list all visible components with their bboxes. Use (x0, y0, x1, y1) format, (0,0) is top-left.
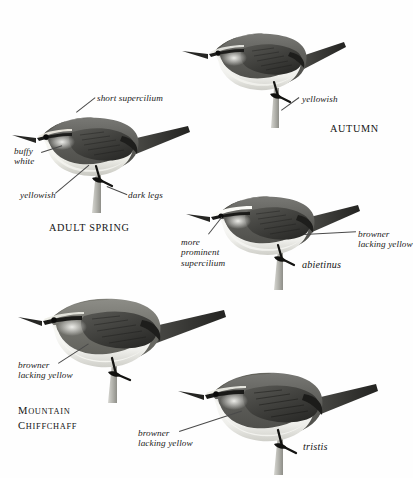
foot (108, 371, 121, 377)
eye (216, 51, 221, 56)
label-browner-lacking-yellow-tristis: browner lacking yellow (138, 428, 193, 449)
bird-autumn (178, 18, 348, 128)
caption-abietinus: abietinus (302, 259, 341, 270)
foot (274, 443, 287, 449)
illustration-plate: yellowish AUTUMN sh (0, 0, 413, 478)
foot (92, 177, 104, 183)
caption-tristis: tristis (303, 441, 328, 452)
label-browner-lacking-yellow-abietinus: browner lacking yellow (358, 229, 413, 250)
caption-mountain-rest: OUNTAIN (28, 407, 70, 416)
label-browner-lacking-yellow-mountain: browner lacking yellow (18, 360, 73, 381)
eye (51, 317, 56, 322)
eye (43, 134, 48, 139)
bill (178, 391, 204, 400)
bill (186, 214, 210, 222)
label-yellowish-spring: yellowish (20, 190, 56, 200)
label-short-supercilium: short supercilium (97, 93, 163, 103)
bill (12, 135, 36, 143)
eye (213, 391, 218, 396)
caption-mountain-initial: M (18, 405, 28, 416)
label-yellowish-autumn: yellowish (302, 94, 338, 104)
bird-tristis (176, 360, 381, 475)
caption-adult-spring: ADULT SPRING (49, 222, 130, 233)
label-more-prominent-supercilium: more prominent supercilium (181, 237, 225, 268)
label-buffy-white: buffy white (14, 146, 34, 167)
label-dark-legs: dark legs (128, 190, 163, 200)
foot (270, 93, 282, 99)
bill (18, 317, 42, 326)
caption-chiffchaff-initial: C (18, 420, 26, 431)
caption-autumn: AUTUMN (330, 123, 379, 134)
caption-chiffchaff-rest: HIFFCHAFF (26, 422, 77, 431)
caption-mountain-chiffchaff: MOUNTAINCHIFFCHAFF (18, 404, 77, 434)
foot (274, 256, 286, 262)
bill (182, 51, 208, 59)
